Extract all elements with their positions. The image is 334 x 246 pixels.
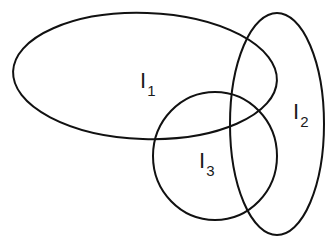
label-i1-subscript: 1 bbox=[147, 82, 155, 99]
label-i3: I3 bbox=[199, 150, 214, 178]
diagram-canvas: I1 I2 I3 bbox=[0, 0, 334, 246]
label-i3-base: I bbox=[199, 148, 205, 173]
venn-diagram bbox=[0, 0, 334, 246]
label-i2: I2 bbox=[293, 101, 308, 129]
label-i1: I1 bbox=[140, 70, 155, 98]
label-i2-base: I bbox=[293, 99, 299, 124]
label-i3-subscript: 3 bbox=[206, 162, 214, 179]
set-i2-ellipse bbox=[230, 13, 324, 235]
label-i2-subscript: 2 bbox=[300, 113, 308, 130]
label-i1-base: I bbox=[140, 68, 146, 93]
set-i3-circle bbox=[153, 92, 277, 220]
